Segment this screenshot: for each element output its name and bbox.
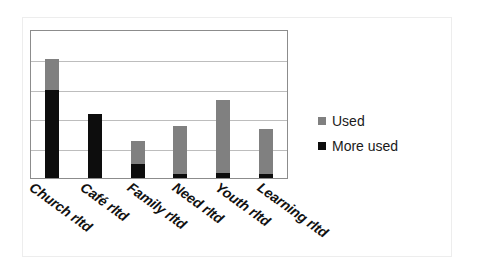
- legend-label: Used: [332, 113, 365, 129]
- bar-slot-youth: [202, 31, 245, 178]
- black-square-icon: [318, 142, 326, 150]
- bar-slot-church: [31, 31, 74, 178]
- bar-learning[interactable]: [259, 129, 273, 178]
- bar-slot-need: [159, 31, 202, 178]
- legend-item-more-used[interactable]: More used: [318, 138, 443, 154]
- bar-segment-used: [45, 59, 59, 90]
- bar-segment-used: [216, 100, 230, 173]
- bar-youth[interactable]: [216, 100, 230, 178]
- bar-church[interactable]: [45, 59, 59, 178]
- bar-group: [31, 31, 287, 178]
- x-axis-labels: Church rltd Café rltd Family rltd Need r…: [30, 179, 288, 249]
- bar-slot-cafe: [74, 31, 117, 178]
- bar-slot-family: [116, 31, 159, 178]
- bar-segment-more-used: [45, 90, 59, 178]
- bar-segment-more-used: [259, 174, 273, 178]
- bar-family[interactable]: [131, 141, 145, 178]
- bar-segment-more-used: [88, 114, 102, 178]
- legend-label: More used: [332, 138, 398, 154]
- chart-legend: Used More used: [318, 113, 443, 163]
- bar-segment-more-used: [173, 174, 187, 178]
- bar-cafe[interactable]: [88, 114, 102, 178]
- bar-segment-more-used: [216, 173, 230, 178]
- bar-segment-used: [259, 129, 273, 174]
- gray-square-icon: [318, 117, 326, 125]
- bar-segment-more-used: [131, 164, 145, 178]
- bar-segment-used: [131, 141, 145, 164]
- bar-segment-used: [173, 126, 187, 174]
- bar-need[interactable]: [173, 126, 187, 178]
- bar-slot-learning: [244, 31, 287, 178]
- x-label-learning: Learning rltd: [255, 179, 332, 241]
- plot-area: [30, 30, 288, 179]
- legend-item-used[interactable]: Used: [318, 113, 443, 129]
- chart-figure: Church rltd Café rltd Family rltd Need r…: [22, 17, 452, 257]
